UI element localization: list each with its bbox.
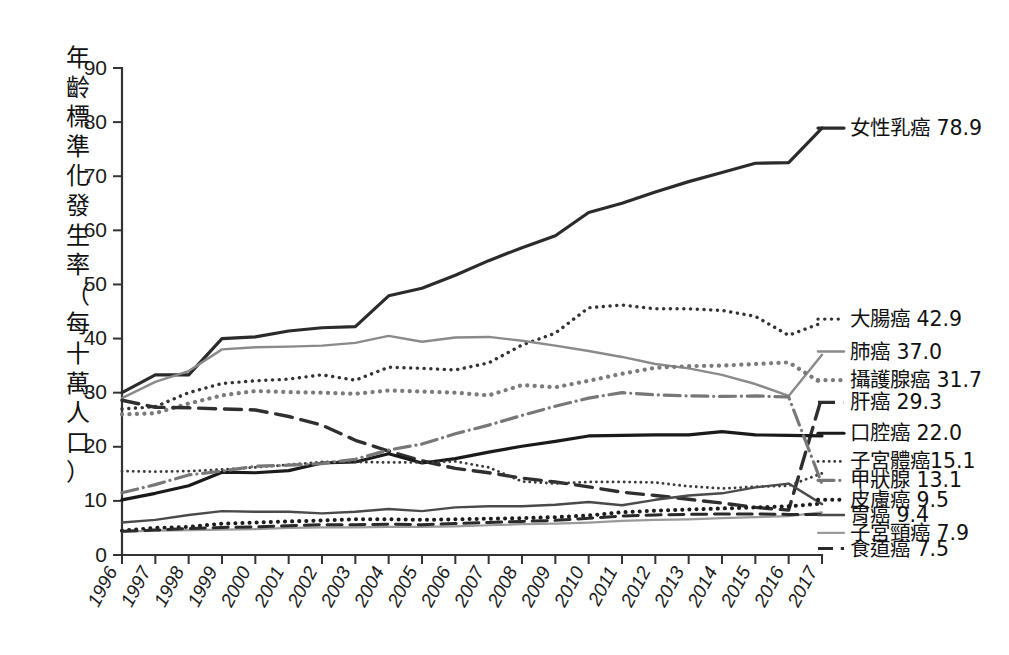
- x-axis-ticks: 1996199719981999200020012002200320042005…: [83, 555, 822, 611]
- y-tick-label: 80: [84, 110, 107, 133]
- incidence-rate-line-chart: 年齡標準化發生率（每十萬人口） 0102030405060708090 1996…: [0, 0, 1009, 655]
- x-tick-label: 1999: [183, 563, 222, 611]
- chart-container: 年齡標準化發生率（每十萬人口） 0102030405060708090 1996…: [0, 0, 1009, 655]
- legend-label-1: 大腸癌 42.9: [850, 307, 962, 331]
- y-tick-label: 10: [84, 488, 107, 511]
- x-tick-label: 2010: [549, 563, 588, 611]
- x-tick-label: 2007: [449, 562, 489, 611]
- x-tick-label: 1996: [83, 563, 122, 611]
- legend-label-5: 口腔癌 22.0: [850, 421, 962, 445]
- legend-label-2: 肺癌 37.0: [850, 340, 942, 364]
- x-tick-label: 1998: [150, 563, 189, 611]
- legend-label-4: 肝癌 29.3: [850, 390, 942, 414]
- y-axis-title-char: 人: [66, 399, 90, 427]
- y-tick-label: 90: [84, 56, 107, 79]
- series-end-labels: 女性乳癌 78.9大腸癌 42.9肺癌 37.0攝護腺癌 31.7肝癌 29.3…: [818, 116, 982, 560]
- series-lines: [122, 128, 822, 532]
- x-tick-label: 2005: [383, 563, 422, 611]
- x-tick-label: 2013: [649, 563, 688, 611]
- x-tick-label: 2012: [616, 563, 655, 611]
- x-tick-label: 2008: [483, 563, 522, 611]
- y-tick-label: 60: [84, 218, 107, 241]
- legend-label-11: 食道癌 7.5: [850, 537, 949, 561]
- x-tick-label: 2016: [749, 563, 788, 611]
- x-tick-label: 2009: [516, 563, 555, 611]
- x-tick-label: 2014: [683, 563, 722, 611]
- x-tick-label: 2004: [349, 563, 388, 611]
- x-tick-label: 2015: [716, 563, 755, 611]
- x-tick-label: 2006: [416, 563, 455, 611]
- x-tick-label: 2002: [283, 563, 322, 611]
- y-tick-label: 0: [95, 543, 107, 566]
- legend-label-3: 攝護腺癌 31.7: [850, 368, 982, 392]
- x-tick-label: 1997: [116, 562, 155, 610]
- y-axis-title-char: 準: [66, 133, 90, 161]
- x-tick-label: 2001: [249, 563, 288, 611]
- y-tick-label: 50: [84, 272, 107, 295]
- y-tick-label: 70: [84, 164, 107, 187]
- y-axis-title-char: 發: [66, 192, 90, 220]
- x-tick-label: 2003: [316, 563, 355, 611]
- y-tick-label: 30: [84, 380, 107, 403]
- series-line-1: [122, 305, 822, 409]
- y-axis-title-char: ）: [66, 458, 90, 486]
- series-line-6: [122, 461, 822, 488]
- x-tick-label: 2000: [216, 563, 255, 611]
- y-tick-label: 40: [84, 326, 107, 349]
- series-line-3: [122, 362, 822, 414]
- x-tick-label: 2017: [783, 562, 823, 611]
- series-line-5: [122, 432, 822, 500]
- series-line-0: [122, 128, 822, 393]
- legend-label-0: 女性乳癌 78.9: [850, 116, 982, 140]
- y-tick-label: 20: [84, 434, 107, 457]
- x-tick-label: 2011: [583, 563, 621, 610]
